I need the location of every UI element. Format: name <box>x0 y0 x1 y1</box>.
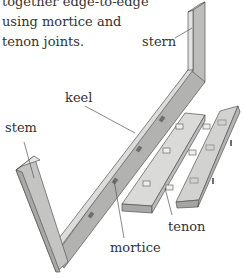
stem-post <box>16 156 68 272</box>
stern-label: stern <box>142 35 176 49</box>
hull-construction-illustration <box>0 0 244 278</box>
mortice-label: mortice <box>110 241 161 255</box>
tenon-leader <box>165 188 172 215</box>
keel-leader <box>85 106 135 133</box>
stem-label: stem <box>5 121 37 135</box>
keel-label: keel <box>65 91 92 105</box>
tenon-label: tenon <box>168 220 206 234</box>
